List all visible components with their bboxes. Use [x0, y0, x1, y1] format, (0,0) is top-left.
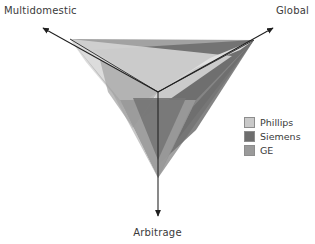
legend-label-siemens: Siemens [260, 131, 301, 142]
axis-label-global: Global [276, 6, 309, 16]
legend-item-siemens: Siemens [244, 131, 301, 142]
legend-swatch-siemens [244, 131, 255, 142]
legend-label-phillips: Phillips [260, 117, 293, 128]
legend-label-ge: GE [260, 145, 273, 156]
legend-swatch-phillips [244, 117, 255, 128]
axis-label-multidomestic: Multidomestic [4, 6, 77, 16]
series-polygons [70, 39, 254, 178]
ternary-strategy-chart: Multidomestic Global Arbitrage Phillips … [0, 0, 315, 244]
legend-item-phillips: Phillips [244, 117, 301, 128]
axis-label-arbitrage: Arbitrage [0, 228, 315, 238]
legend: Phillips Siemens GE [244, 117, 301, 156]
legend-item-ge: GE [244, 145, 301, 156]
legend-swatch-ge [244, 145, 255, 156]
